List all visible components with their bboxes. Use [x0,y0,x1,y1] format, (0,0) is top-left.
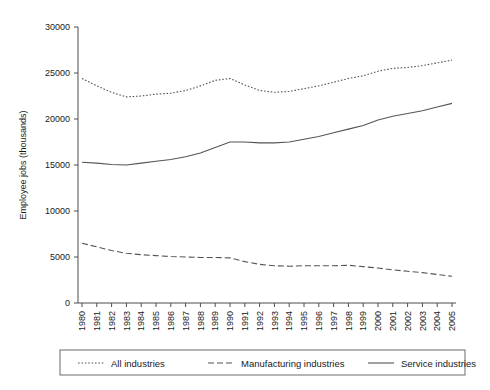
x-tick-label: 1997 [329,311,339,331]
x-tick-label: 1986 [166,311,176,331]
x-tick-label: 1989 [210,311,220,331]
x-tick-label: 1981 [92,311,102,331]
x-tick-label: 1983 [122,311,132,331]
y-axis-title: Employee jobs (thousands) [18,110,28,219]
x-tick-label: 2002 [403,311,413,331]
legend-label-manufacturing-industries: Manufacturing industries [241,358,345,369]
x-tick-label: 1982 [107,311,117,331]
x-tick-label: 1984 [136,311,146,331]
x-tick-label: 1994 [284,311,294,331]
x-tick-label: 1992 [255,311,265,331]
x-tick-label: 1988 [196,311,206,331]
legend-label-all-industries: All industries [111,358,165,369]
x-tick-label: 1995 [299,311,309,331]
x-tick-label: 2003 [418,311,428,331]
x-tick-label: 2005 [447,311,457,331]
legend-label-service-industries: Service industries [401,358,476,369]
x-tick-label: 2001 [388,311,398,331]
y-tick-label: 30000 [45,22,70,32]
y-tick-label: 25000 [45,68,70,78]
y-tick-label: 0 [65,298,70,308]
y-tick-label: 10000 [45,206,70,216]
x-tick-label: 1998 [344,311,354,331]
x-tick-label: 1987 [181,311,191,331]
x-tick-label: 1991 [240,311,250,331]
y-tick-label: 5000 [50,252,70,262]
y-tick-label: 20000 [45,114,70,124]
y-tick-label: 15000 [45,160,70,170]
x-tick-label: 1980 [77,311,87,331]
x-tick-label: 1993 [270,311,280,331]
x-tick-label: 2004 [432,311,442,331]
x-tick-label: 1996 [314,311,324,331]
x-tick-label: 1990 [225,311,235,331]
x-tick-label: 2000 [373,311,383,331]
x-tick-label: 1999 [358,311,368,331]
x-tick-label: 1985 [151,311,161,331]
legend-items: All industriesManufacturing industriesSe… [78,358,476,369]
employee-jobs-line-chart: Employee jobs (thousands) 05000100001500… [0,0,490,390]
